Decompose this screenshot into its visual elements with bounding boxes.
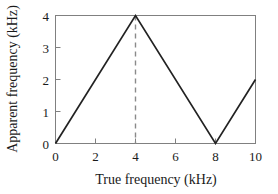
x-tick-label-0: 0	[52, 149, 59, 164]
x-tick-label-4: 4	[132, 149, 139, 164]
x-axis-title: True frequency (kHz)	[95, 172, 217, 188]
chart-canvas: 0 1 2 3 4 0 2 4 6 8 10 True frequency (k…	[0, 0, 278, 194]
y-axis-ticks	[56, 16, 61, 144]
y-tick-label-4: 4	[43, 9, 50, 24]
x-tick-label-6: 6	[172, 149, 179, 164]
y-tick-label-3: 3	[43, 41, 50, 56]
x-axis-ticks	[56, 139, 256, 144]
y-tick-label-1: 1	[43, 105, 50, 120]
y-tick-label-2: 2	[43, 73, 50, 88]
x-tick-label-10: 10	[249, 149, 262, 164]
y-tick-label-0: 0	[43, 137, 50, 152]
figure-container: 0 1 2 3 4 0 2 4 6 8 10 True frequency (k…	[0, 0, 278, 194]
x-tick-label-8: 8	[212, 149, 219, 164]
x-tick-label-2: 2	[92, 149, 99, 164]
y-axis-title: Apparent frequency (kHz)	[5, 5, 21, 153]
plot-frame	[56, 16, 256, 144]
apparent-frequency-line	[56, 16, 256, 144]
